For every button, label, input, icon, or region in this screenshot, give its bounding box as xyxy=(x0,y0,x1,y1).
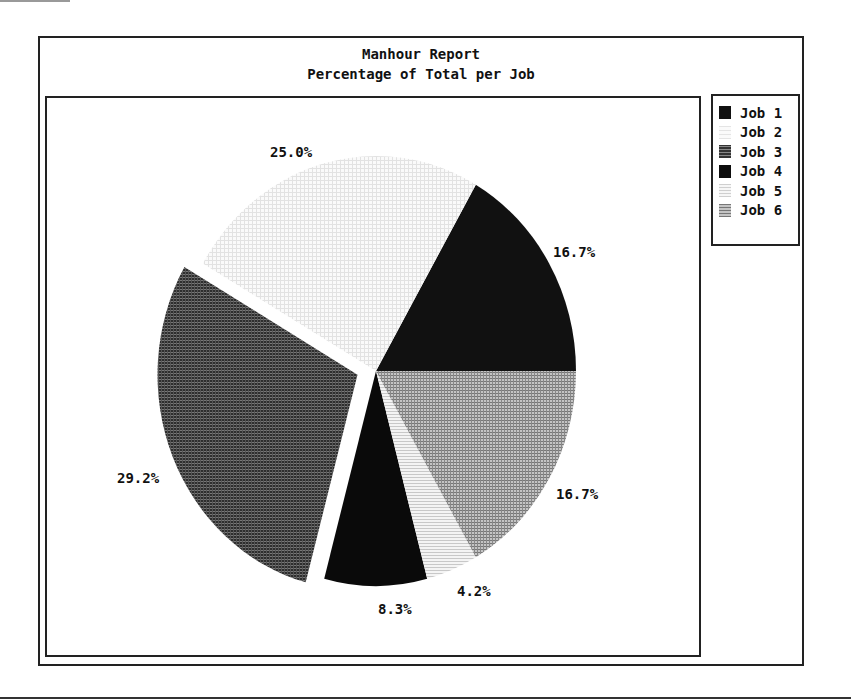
legend-swatch-job4 xyxy=(719,165,731,178)
legend-label: Job 1 xyxy=(740,105,782,121)
slice-label-job5: 4.2% xyxy=(457,583,491,599)
legend-item-job5: Job 5 xyxy=(719,181,798,201)
slice-label-job6: 16.7% xyxy=(556,486,598,502)
legend-item-job4: Job 4 xyxy=(719,162,798,182)
legend-swatch-job3 xyxy=(719,145,731,158)
legend-swatch-job6 xyxy=(719,204,731,217)
legend-item-job1: Job 1 xyxy=(719,103,798,123)
legend-label: Job 5 xyxy=(740,183,782,199)
legend-swatch-job5 xyxy=(719,184,731,197)
legend-label: Job 6 xyxy=(740,202,782,218)
slice-label-job3: 29.2% xyxy=(117,470,159,486)
slice-label-job4: 8.3% xyxy=(378,601,412,617)
slice-label-job2: 25.0% xyxy=(270,144,312,160)
slice-label-job1: 16.7% xyxy=(553,244,595,260)
legend-swatch-job2 xyxy=(719,126,731,139)
legend-label: Job 3 xyxy=(740,144,782,160)
pie-slices xyxy=(158,156,576,586)
legend-item-job2: Job 2 xyxy=(719,123,798,143)
legend-item-job3: Job 3 xyxy=(719,142,798,162)
page-bottom-rule xyxy=(0,697,851,699)
legend-label: Job 4 xyxy=(740,163,782,179)
legend: Job 1 Job 2 Job 3 Job 4 Job 5 Job 6 xyxy=(711,94,800,246)
legend-swatch-job1 xyxy=(719,106,731,119)
legend-item-job6: Job 6 xyxy=(719,201,798,221)
legend-label: Job 2 xyxy=(740,124,782,140)
